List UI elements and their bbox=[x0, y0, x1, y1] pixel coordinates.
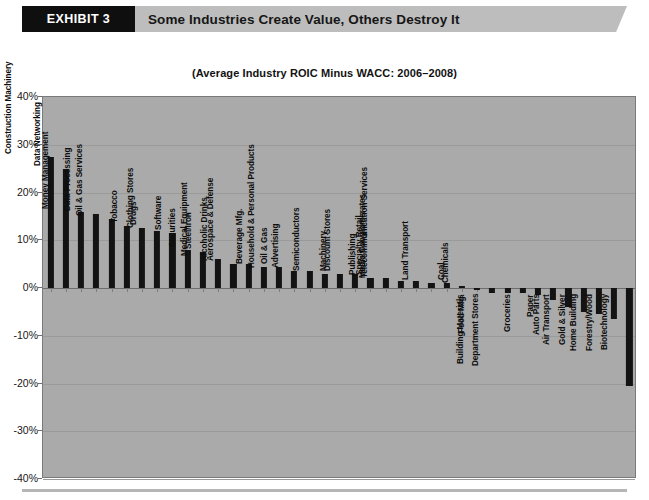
bar-group: Food Mfg. bbox=[469, 97, 484, 477]
bar[interactable] bbox=[413, 281, 419, 288]
chart-plot-area: Construction MachineryData NetworkingMon… bbox=[42, 96, 636, 478]
bar[interactable] bbox=[428, 283, 434, 288]
bar-group: Semiconductors bbox=[317, 97, 332, 477]
y-axis-tick-label: -40% bbox=[0, 472, 38, 484]
y-axis-tick-mark bbox=[38, 239, 42, 240]
bar-group: Department Stores bbox=[500, 97, 515, 477]
bar-group: Machinery bbox=[332, 97, 347, 477]
x-axis-tick-mark bbox=[157, 288, 158, 292]
bar-category-label: Building Materials bbox=[457, 294, 465, 364]
bar-group: Drugs bbox=[134, 97, 149, 477]
bar[interactable] bbox=[474, 288, 480, 290]
bar-category-label: Air Transport bbox=[543, 294, 551, 345]
bar[interactable] bbox=[78, 212, 84, 288]
y-axis-tick-mark bbox=[38, 335, 42, 336]
bar[interactable] bbox=[383, 278, 389, 288]
x-axis-tick-mark bbox=[218, 288, 219, 292]
bar[interactable] bbox=[367, 278, 373, 288]
bar-group: Home Building bbox=[591, 97, 606, 477]
bar-group: Beverage Mfg. bbox=[256, 97, 271, 477]
y-axis-tick-label: -20% bbox=[0, 377, 38, 389]
bar[interactable] bbox=[276, 267, 282, 288]
x-axis-tick-mark bbox=[462, 288, 463, 292]
bar-category-label: Telecommunication Services bbox=[361, 167, 369, 278]
gridline--40 bbox=[43, 479, 635, 480]
y-axis-tick-label: 40% bbox=[0, 90, 38, 102]
bar-category-label: Securities bbox=[168, 208, 176, 247]
bar-category-label: Department Stores bbox=[471, 294, 479, 366]
bar[interactable] bbox=[626, 288, 632, 386]
x-axis-tick-mark bbox=[188, 288, 189, 292]
bar-group: Oil & Gas bbox=[271, 97, 286, 477]
bar[interactable] bbox=[398, 281, 404, 288]
bar-category-label: Aerospace & Defense bbox=[207, 178, 215, 261]
bar-group: Discount Stores bbox=[348, 97, 363, 477]
y-axis-tick-mark bbox=[38, 478, 42, 479]
x-axis-tick-mark bbox=[203, 288, 204, 292]
bar[interactable] bbox=[154, 231, 160, 288]
bar-group: Chemicals bbox=[454, 97, 469, 477]
bar-category-label: Data Processing bbox=[65, 148, 73, 211]
y-axis-tick-mark bbox=[38, 144, 42, 145]
bar-group: Data Processing bbox=[89, 97, 104, 477]
bar-category-label: Clothing Stores bbox=[127, 167, 135, 227]
y-axis-tick-mark bbox=[38, 383, 42, 384]
bar[interactable] bbox=[230, 264, 236, 288]
bar[interactable] bbox=[611, 288, 617, 319]
bar-group: Groceries bbox=[515, 97, 530, 477]
bar[interactable] bbox=[444, 283, 450, 288]
bar[interactable] bbox=[124, 226, 130, 288]
bar-category-label: Auto Parts bbox=[533, 294, 541, 335]
x-axis-tick-mark bbox=[127, 288, 128, 292]
bar-category-label: Groceries bbox=[504, 294, 512, 332]
bar-category-label: Forestry/Wood bbox=[586, 294, 594, 351]
bar[interactable] bbox=[291, 271, 297, 288]
x-axis-tick-mark bbox=[325, 288, 326, 292]
bar[interactable] bbox=[215, 259, 221, 288]
bar-group: Gold & Silver bbox=[576, 97, 591, 477]
bar-category-label: Oil & Gas bbox=[261, 227, 269, 263]
bar[interactable] bbox=[520, 288, 526, 293]
x-axis-tick-mark bbox=[51, 288, 52, 292]
chart-title: (Average Industry ROIC Minus WACC: 2006–… bbox=[0, 67, 649, 79]
x-axis-tick-mark bbox=[249, 288, 250, 292]
bar[interactable] bbox=[459, 286, 465, 288]
bar-category-label: Home Building bbox=[570, 294, 578, 351]
bar-category-label: Chemicals bbox=[442, 242, 450, 283]
bar-category-label: Oil & Gas Services bbox=[76, 144, 84, 216]
bar-group: Land Transport bbox=[424, 97, 439, 477]
bar[interactable] bbox=[337, 274, 343, 288]
x-axis-tick-mark bbox=[142, 288, 143, 292]
bar-group: Air Transport bbox=[561, 97, 576, 477]
x-axis-tick-mark bbox=[233, 288, 234, 292]
bar-group: Tobacco bbox=[119, 97, 134, 477]
bar-group: Steel/Iron bbox=[195, 97, 210, 477]
x-axis-tick-mark bbox=[112, 288, 113, 292]
bar-group: Medical Equipment bbox=[211, 97, 226, 477]
bar[interactable] bbox=[93, 214, 99, 288]
bar-group: Paper bbox=[530, 97, 545, 477]
bar[interactable] bbox=[261, 267, 267, 288]
bar[interactable] bbox=[504, 288, 510, 293]
bar[interactable] bbox=[108, 219, 114, 288]
bar-category-label: Discount Stores bbox=[324, 209, 332, 271]
x-axis-tick-mark bbox=[310, 288, 311, 292]
x-axis-tick-mark bbox=[431, 288, 432, 292]
bar[interactable] bbox=[489, 288, 495, 293]
footer-rule bbox=[22, 489, 627, 492]
x-axis-tick-mark bbox=[96, 288, 97, 292]
y-axis-tick-label: 20% bbox=[0, 186, 38, 198]
bar-group: Alcoholic Drinks bbox=[226, 97, 241, 477]
y-axis-tick-mark bbox=[38, 287, 42, 288]
bar-category-label: Software bbox=[155, 196, 163, 230]
bar[interactable] bbox=[550, 288, 556, 300]
bar-category-label: Advertising bbox=[272, 224, 280, 269]
bar-group: Forestry/Wood bbox=[607, 97, 622, 477]
bar[interactable] bbox=[322, 274, 328, 288]
bar[interactable] bbox=[139, 228, 145, 288]
exhibit-number-label: EXHIBIT 3 bbox=[22, 6, 135, 32]
bar-category-label: Medical Equipment bbox=[181, 183, 189, 257]
bar[interactable] bbox=[306, 271, 312, 288]
x-axis-tick-mark bbox=[172, 288, 173, 292]
bar-category-label: Biotechnology bbox=[601, 294, 609, 350]
